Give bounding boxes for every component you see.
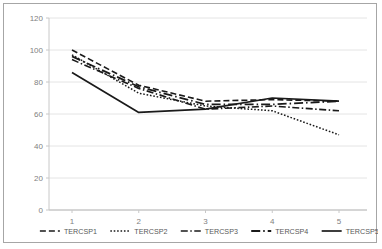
legend-item-tercsp3[interactable]: TERCSP3 [181, 227, 238, 236]
legend-item-tercsp2[interactable]: TERCSP2 [110, 227, 167, 236]
legend-item-tercsp4[interactable]: TERCSP4 [251, 227, 308, 236]
x-axis-tick-labels: 12345 [70, 217, 342, 226]
x-tick-label: 5 [337, 217, 342, 226]
legend-label: TERCSP5 [346, 227, 378, 236]
x-tick-label: 2 [137, 217, 142, 226]
legend-label: TERCSP2 [134, 227, 167, 236]
line-chart: 020406080100120 12345 TERCSP1TERCSP2TERC… [4, 4, 376, 242]
x-tick-label: 4 [270, 217, 275, 226]
chart-legend: TERCSP1TERCSP2TERCSP3TERCSP4TERCSP5 [40, 227, 378, 236]
x-tick-label: 3 [203, 217, 208, 226]
y-tick-label: 0 [39, 206, 44, 215]
y-tick-label: 60 [34, 110, 43, 119]
legend-item-tercsp5[interactable]: TERCSP5 [322, 227, 378, 236]
legend-label: TERCSP1 [64, 227, 97, 236]
legend-label: TERCSP3 [205, 227, 238, 236]
legend-label: TERCSP4 [275, 227, 308, 236]
y-tick-label: 20 [34, 174, 43, 183]
y-axis-tick-labels: 020406080100120 [30, 14, 44, 215]
y-tick-label: 120 [30, 14, 44, 23]
y-tick-label: 40 [34, 142, 43, 151]
chart-svg: 020406080100120 12345 TERCSP1TERCSP2TERC… [4, 4, 378, 244]
legend-item-tercsp1[interactable]: TERCSP1 [40, 227, 97, 236]
chart-frame: 020406080100120 12345 TERCSP1TERCSP2TERC… [3, 3, 377, 243]
y-tick-label: 100 [30, 46, 44, 55]
y-tick-label: 80 [34, 78, 43, 87]
x-tick-label: 1 [70, 217, 75, 226]
